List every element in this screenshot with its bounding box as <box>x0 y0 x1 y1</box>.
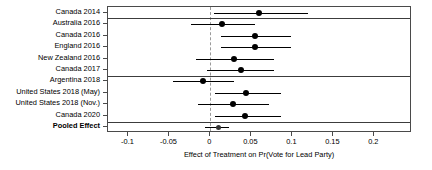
y-axis-tick <box>103 35 107 36</box>
study-label: Canada 2016 <box>56 31 100 39</box>
point-estimate-marker <box>256 10 262 16</box>
group-separator <box>108 76 410 77</box>
x-axis-tick-label: -0.05 <box>160 137 177 146</box>
plot-area <box>107 6 411 132</box>
x-axis-tick <box>332 132 333 136</box>
x-axis-tick <box>209 132 210 136</box>
x-axis-tick-label: 0.15 <box>325 137 339 146</box>
point-estimate-marker <box>243 90 249 96</box>
study-label: Canada 2014 <box>56 8 100 16</box>
study-label: Canada 2020 <box>56 111 100 119</box>
y-axis-tick <box>103 115 107 116</box>
study-label: Canada 2017 <box>56 65 100 73</box>
point-estimate-marker <box>219 21 225 27</box>
study-label: Pooled Effect <box>53 122 100 130</box>
point-estimate-marker <box>252 44 258 50</box>
study-label: England 2016 <box>54 42 100 50</box>
y-axis-tick <box>103 58 107 59</box>
x-axis-tick-label: 0.05 <box>243 137 257 146</box>
study-label-axis: Canada 2014Australia 2016Canada 2016Engl… <box>0 6 104 132</box>
forest-plot-figure: Canada 2014Australia 2016Canada 2016Engl… <box>0 0 432 170</box>
study-label: United States 2018 (Nov.) <box>16 99 101 107</box>
point-estimate-marker <box>242 113 248 119</box>
study-label: Argentina 2018 <box>50 76 100 84</box>
x-axis-tick <box>291 132 292 136</box>
point-estimate-marker <box>230 101 236 107</box>
study-label: New Zealand 2016 <box>38 54 100 62</box>
group-separator <box>108 18 410 19</box>
y-axis-tick <box>103 23 107 24</box>
pooled-estimate-marker <box>216 125 221 130</box>
y-axis-tick <box>103 12 107 13</box>
point-estimate-marker <box>252 33 258 39</box>
y-axis-tick <box>103 126 107 127</box>
x-axis-tick-label: 0.2 <box>368 137 378 146</box>
y-axis-tick <box>103 80 107 81</box>
x-axis-tick <box>127 132 128 136</box>
zero-reference-line <box>210 7 211 131</box>
point-estimate-marker <box>231 56 237 62</box>
y-axis-tick <box>103 92 107 93</box>
x-axis-tick-label: -0.1 <box>121 137 134 146</box>
x-axis-tick <box>250 132 251 136</box>
study-label: Australia 2016 <box>53 19 100 27</box>
x-axis-tick <box>373 132 374 136</box>
x-axis-tick <box>168 132 169 136</box>
study-label: United States 2018 (May) <box>16 88 100 96</box>
x-axis-tick-label: 0.1 <box>286 137 296 146</box>
y-axis-tick <box>103 46 107 47</box>
x-axis-title: Effect of Treatment on Pr(Vote for Lead … <box>107 150 411 159</box>
point-estimate-marker <box>200 78 206 84</box>
y-axis-tick <box>103 103 107 104</box>
group-separator <box>108 122 410 123</box>
y-axis-tick <box>103 69 107 70</box>
point-estimate-marker <box>238 67 244 73</box>
x-axis-tick-label: 0 <box>207 137 211 146</box>
